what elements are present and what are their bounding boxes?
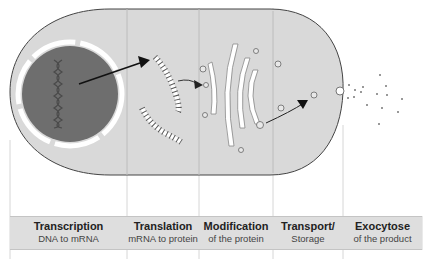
stage-title: Transcription xyxy=(10,220,127,233)
stage-translation: Translation mRNA to protein xyxy=(127,217,199,249)
stage-label-band: Transcription DNA to mRNA Translation mR… xyxy=(10,216,422,250)
secreted-product-dots xyxy=(347,74,403,125)
stage-title: Exocytose xyxy=(343,220,422,233)
stage-title: Translation xyxy=(127,220,199,233)
stage-transcription: Transcription DNA to mRNA xyxy=(10,217,127,249)
exocytosis-vesicle xyxy=(336,87,344,95)
stage-subtitle: DNA to mRNA xyxy=(10,233,127,245)
stage-exocytose: Exocytose of the product xyxy=(343,217,422,249)
nucleus xyxy=(22,46,118,142)
stage-subtitle: of the product xyxy=(343,233,422,245)
stage-subtitle: Storage xyxy=(273,233,343,245)
stage-modification: Modification of the protein xyxy=(199,217,273,249)
stage-subtitle: mRNA to protein xyxy=(127,233,199,245)
stage-title: Modification xyxy=(199,220,273,233)
stage-subtitle: of the protein xyxy=(199,233,273,245)
stage-title: Transport/ xyxy=(273,220,343,233)
stage-transport: Transport/ Storage xyxy=(273,217,343,249)
